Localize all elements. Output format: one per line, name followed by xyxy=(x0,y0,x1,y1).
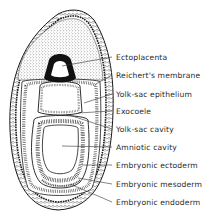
label-ectoplacenta: Ectoplacenta xyxy=(116,53,167,62)
label-embryonic-ectoderm: Embryonic ectoderm xyxy=(116,161,198,170)
label-exocoele: Exocoele xyxy=(116,107,151,116)
labels: Ectoplacenta Reichert's membrane Yolk-sa… xyxy=(115,53,202,207)
label-yolk-sac-epithelium: Yolk-sac epithelium xyxy=(115,90,192,99)
label-embryonic-mesoderm: Embryonic mesoderm xyxy=(116,180,202,189)
label-embryonic-endoderm: Embryonic endoderm xyxy=(116,198,200,207)
egg-cylinder-diagram: Ectoplacenta Reichert's membrane Yolk-sa… xyxy=(0,0,214,219)
embryonic-region xyxy=(32,116,90,189)
label-yolk-sac-cavity: Yolk-sac cavity xyxy=(115,125,174,134)
label-amniotic-cavity: Amniotic cavity xyxy=(116,143,177,152)
label-reicherts-membrane: Reichert's membrane xyxy=(116,71,201,80)
exocoele-region xyxy=(38,82,82,116)
